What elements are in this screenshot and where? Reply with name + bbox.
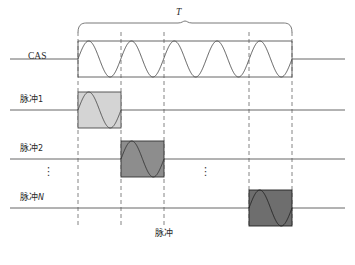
row-label-pulse-n: 脉冲N bbox=[20, 193, 44, 202]
row-ellipsis-left-icon: ⋮ bbox=[43, 166, 54, 177]
period-label-T: T bbox=[176, 8, 181, 18]
row-label-pulse-2: 脉冲2 bbox=[20, 144, 43, 153]
row-label-pulse-1: 脉冲1 bbox=[20, 95, 43, 104]
signal-row-4 bbox=[10, 190, 345, 226]
waveform-sine bbox=[78, 41, 292, 77]
row-label-pulse-2-index: 2 bbox=[38, 144, 43, 153]
row-label-pulse-2-prefix: 脉冲 bbox=[20, 143, 38, 153]
signal-rows bbox=[10, 41, 345, 226]
row-label-cas: CAS bbox=[28, 52, 46, 62]
signal-row-3 bbox=[10, 141, 345, 177]
bottom-caption: 脉冲 bbox=[155, 229, 173, 238]
period-brace bbox=[78, 21, 292, 32]
signal-row-1 bbox=[10, 41, 345, 77]
row-label-pulse-n-prefix: 脉冲 bbox=[20, 192, 38, 202]
row-label-pulse-1-prefix: 脉冲 bbox=[20, 94, 38, 104]
signal-row-2 bbox=[10, 92, 345, 128]
row-label-pulse-n-index: N bbox=[38, 193, 44, 202]
diagram-canvas bbox=[0, 0, 355, 265]
timing-diagram-figure: T CAS 脉冲1 脉冲2 脉冲N ⋮ ⋮ 脉冲 bbox=[0, 0, 355, 265]
row-label-pulse-1-index: 1 bbox=[38, 95, 43, 104]
row-ellipsis-middle-icon: ⋮ bbox=[200, 166, 211, 177]
